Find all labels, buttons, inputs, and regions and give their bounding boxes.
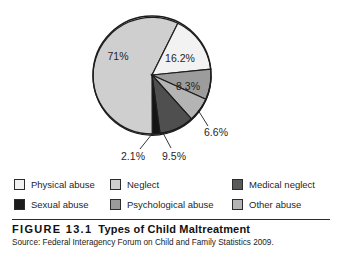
legend-item-other-abuse[interactable]: Other abuse bbox=[232, 199, 330, 210]
legend-swatch-sexual-abuse bbox=[14, 199, 25, 210]
legend-item-sexual-abuse[interactable]: Sexual abuse bbox=[14, 199, 110, 210]
legend-item-psychological-abuse[interactable]: Psychological abuse bbox=[110, 199, 232, 210]
legend-label-medical-neglect: Medical neglect bbox=[249, 179, 315, 190]
legend-swatch-other-abuse bbox=[232, 199, 243, 210]
chart-legend: Physical abuse Neglect Medical neglect S… bbox=[14, 174, 330, 214]
legend-label-psychological-abuse: Psychological abuse bbox=[127, 199, 214, 210]
slice-label-71: 71% bbox=[107, 50, 128, 62]
figure-number: FIGURE 13.1 bbox=[12, 223, 92, 235]
figure-source: Source: Federal Interagency Forum on Chi… bbox=[12, 238, 334, 247]
caption-divider bbox=[12, 219, 330, 220]
slice-label-2-1: 2.1% bbox=[121, 150, 145, 162]
figure-title: Types of Child Maltreatment bbox=[98, 223, 250, 235]
legend-item-neglect[interactable]: Neglect bbox=[110, 179, 232, 190]
figure-caption: FIGURE 13.1Types of Child Maltreatment S… bbox=[12, 223, 334, 247]
leader-line-2-1 bbox=[140, 134, 152, 149]
leader-line-6-6 bbox=[198, 110, 208, 126]
legend-row-1: Physical abuse Neglect Medical neglect bbox=[14, 174, 330, 194]
figure-container: 71% 16.2% 8.3% 6.6% 9.5% 2.1% Physical a… bbox=[0, 0, 342, 258]
slice-label-8-3: 8.3% bbox=[176, 80, 200, 92]
legend-swatch-physical-abuse bbox=[14, 179, 25, 190]
leader-line-9-5 bbox=[163, 133, 171, 148]
legend-swatch-medical-neglect bbox=[232, 179, 243, 190]
legend-item-medical-neglect[interactable]: Medical neglect bbox=[232, 179, 330, 190]
slice-label-6-6: 6.6% bbox=[204, 126, 228, 138]
legend-row-2: Sexual abuse Psychological abuse Other a… bbox=[14, 194, 330, 214]
legend-swatch-psychological-abuse bbox=[110, 199, 121, 210]
pie-chart-svg: 71% 16.2% 8.3% 6.6% 9.5% 2.1% bbox=[0, 0, 342, 168]
legend-label-neglect: Neglect bbox=[127, 179, 159, 190]
legend-label-sexual-abuse: Sexual abuse bbox=[31, 199, 89, 210]
slice-label-16-2: 16.2% bbox=[165, 52, 195, 64]
slice-label-9-5: 9.5% bbox=[162, 150, 186, 162]
caption-title-line: FIGURE 13.1Types of Child Maltreatment bbox=[12, 223, 334, 235]
legend-label-physical-abuse: Physical abuse bbox=[31, 179, 95, 190]
legend-label-other-abuse: Other abuse bbox=[249, 199, 301, 210]
legend-item-physical-abuse[interactable]: Physical abuse bbox=[14, 179, 110, 190]
legend-swatch-neglect bbox=[110, 179, 121, 190]
pie-chart: 71% 16.2% 8.3% 6.6% 9.5% 2.1% bbox=[0, 0, 342, 168]
